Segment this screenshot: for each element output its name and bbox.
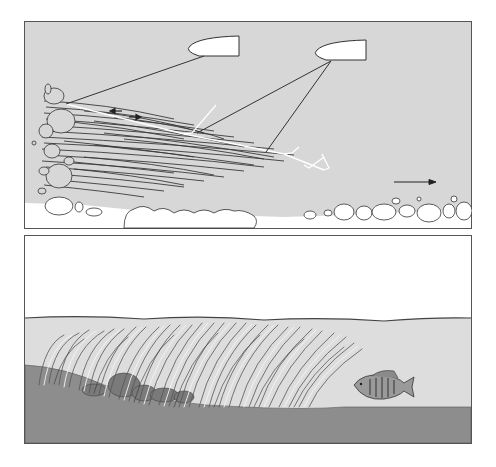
water-background: [25, 22, 472, 229]
top-view-illustration: [24, 21, 472, 229]
side-view-illustration: [24, 235, 472, 444]
top-panel: [24, 21, 472, 229]
bottom-panel: [24, 235, 472, 444]
